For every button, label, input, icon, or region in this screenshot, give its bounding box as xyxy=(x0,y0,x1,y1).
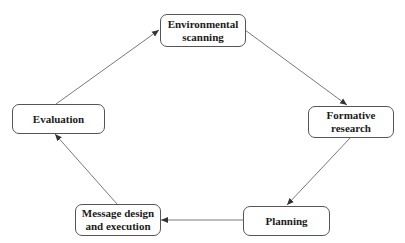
arrow-environmental-to-formative xyxy=(245,30,347,105)
node-evaluation: Evaluation xyxy=(12,104,105,134)
node-label: Planning xyxy=(265,215,307,228)
arrow-formative-to-planning xyxy=(287,137,351,205)
node-label: Formative xyxy=(327,109,376,122)
node-label: Environmental xyxy=(168,18,239,31)
node-label: scanning xyxy=(168,31,239,44)
node-formative-research: Formativeresearch xyxy=(308,106,394,138)
node-label: research xyxy=(327,122,376,135)
node-label: Evaluation xyxy=(33,113,84,126)
arrow-message-to-evaluation xyxy=(55,134,117,204)
node-environmental-scanning: Environmentalscanning xyxy=(160,14,246,47)
node-message-design: Message designand execution xyxy=(75,204,161,236)
node-label: and execution xyxy=(82,220,154,233)
node-label: Message design xyxy=(82,207,154,220)
arrow-evaluation-to-environmental xyxy=(56,30,159,104)
node-planning: Planning xyxy=(243,206,330,236)
